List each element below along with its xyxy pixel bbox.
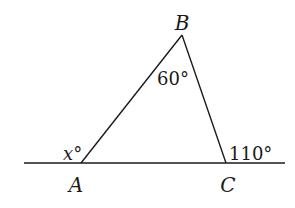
triangle-diagram: B A C 60° x° 110°	[0, 0, 295, 208]
side-ab	[81, 35, 182, 163]
exterior-angle-c-label: 110°	[229, 143, 272, 164]
vertex-label-a: A	[67, 173, 83, 197]
vertex-label-b: B	[174, 11, 190, 35]
side-bc	[182, 35, 226, 163]
angle-a-variable: x	[63, 143, 73, 164]
angle-a-label: x°	[63, 143, 82, 164]
angle-a-degree: °	[73, 143, 82, 164]
vertex-label-c: C	[220, 173, 235, 197]
angle-b-label: 60°	[157, 68, 189, 89]
